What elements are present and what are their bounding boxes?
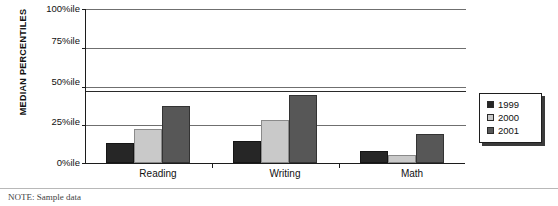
y-tick-label-75: 75%ile (22, 36, 80, 46)
x-tickmark-1 (212, 164, 213, 168)
legend-label-2001: 2001 (498, 125, 519, 136)
footer-note: NOTE: Sample data (8, 192, 81, 202)
bar-group-math (360, 8, 466, 163)
y-axis-tick-labels: 100%ile 75%ile 50%ile 25%ile 0%ile (22, 0, 80, 206)
bar-reading-2000 (134, 129, 162, 163)
legend-swatch-2000-icon (487, 114, 494, 121)
legend-label-1999: 1999 (498, 99, 519, 110)
y-tick-label-100: 100%ile (22, 4, 80, 14)
bar-chart: MEDIAN PERCENTILES 100%ile 75%ile 50%ile… (0, 0, 558, 206)
legend-item-2000: 2000 (487, 111, 541, 124)
bar-writing-1999 (233, 141, 261, 163)
legend: 1999 2000 2001 (479, 93, 542, 143)
x-label-reading: Reading (105, 168, 211, 179)
legend-item-2001: 2001 (487, 124, 541, 137)
x-label-writing: Writing (232, 168, 338, 179)
bar-series-container (86, 8, 466, 163)
footer-divider (0, 188, 558, 189)
bar-math-2001 (416, 134, 444, 163)
plot-area (85, 9, 465, 164)
bar-writing-2001 (289, 95, 317, 163)
bar-writing-2000 (261, 120, 289, 163)
x-tickmark-2 (339, 164, 340, 168)
y-tickmark-0 (82, 163, 86, 164)
x-label-math: Math (359, 168, 465, 179)
bar-math-1999 (360, 151, 388, 163)
y-tick-label-50: 50%ile (22, 77, 80, 87)
y-tick-label-0: 0%ile (22, 158, 80, 168)
bar-group-writing (233, 8, 339, 163)
legend-swatch-1999-icon (487, 101, 494, 108)
legend-swatch-2001-icon (487, 127, 494, 134)
legend-label-2000: 2000 (498, 112, 519, 123)
legend-item-1999: 1999 (487, 98, 541, 111)
y-tick-label-25: 25%ile (22, 117, 80, 127)
bar-math-2000 (388, 155, 416, 163)
bar-reading-2001 (162, 106, 190, 163)
bar-group-reading (106, 8, 212, 163)
bar-reading-1999 (106, 143, 134, 163)
